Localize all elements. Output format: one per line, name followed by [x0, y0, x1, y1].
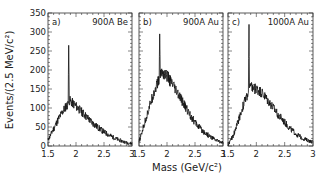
y-tick-label: 50	[35, 122, 46, 132]
y-tick-label: 250	[30, 46, 46, 56]
histogram-line	[48, 45, 132, 144]
x-tick-label: 3	[310, 149, 315, 159]
panel-b: 1.522.53b)900A Au	[132, 13, 225, 159]
x-tick-label: 1.5	[132, 149, 146, 159]
panel-label: c)	[232, 17, 240, 27]
y-tick-label: 300	[30, 27, 46, 37]
x-tick-label: 2.5	[97, 149, 111, 159]
y-tick-label: 150	[30, 84, 46, 94]
x-tick-label: 2	[164, 149, 169, 159]
y-tick-label: 100	[30, 103, 46, 113]
panel-title: 1000A Au	[268, 17, 309, 27]
panel-c: 1.522.53c)1000A Au	[221, 13, 315, 159]
plot-frame	[228, 13, 313, 146]
y-axis-label: Events/(2.5 MeV/c²)	[4, 31, 15, 130]
x-tick-label: 2.5	[278, 149, 292, 159]
y-tick-label: 350	[30, 8, 46, 18]
svg-text:Mass (GeV/c²): Mass (GeV/c²)	[152, 162, 222, 173]
histogram-line	[228, 24, 313, 145]
x-tick-label: 2	[254, 149, 259, 159]
x-tick-label: 1.5	[221, 149, 235, 159]
panel-title: 900A Au	[183, 17, 219, 27]
panels: 1.522.53a)900A Be1.522.53b)900A Au1.522.…	[41, 13, 315, 159]
panel-label: b)	[143, 17, 152, 27]
chart-figure: Events/(2.5 MeV/c²) 05010015020025030035…	[0, 0, 317, 184]
histogram-line	[139, 34, 223, 144]
plot-frame	[139, 13, 223, 146]
y-tick-label: 200	[30, 65, 46, 75]
x-axis-label: Mass (GeV/c²)	[152, 162, 222, 173]
svg-text:Events/(2.5 MeV/c²): Events/(2.5 MeV/c²)	[4, 31, 15, 130]
plot-frame	[48, 13, 132, 146]
x-tick-label: 1.5	[41, 149, 55, 159]
panel-label: a)	[52, 17, 61, 27]
x-tick-label: 2	[73, 149, 78, 159]
x-tick-label: 2.5	[188, 149, 202, 159]
y-axis-ticks: 050100150200250300350	[30, 8, 46, 151]
panel-a: 1.522.53a)900A Be	[41, 13, 134, 159]
panel-title: 900A Be	[92, 17, 128, 27]
